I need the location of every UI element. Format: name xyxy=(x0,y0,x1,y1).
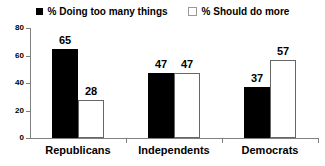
bar-value-label: 37 xyxy=(242,72,272,84)
bar-value-label: 65 xyxy=(50,34,80,46)
bar-democrats-should-do-more xyxy=(270,60,296,138)
y-axis-tick xyxy=(26,83,30,84)
legend-label: % Should do more xyxy=(202,6,290,17)
y-axis-tick-label: 40 xyxy=(0,78,24,88)
category-label-republicans: Republicans xyxy=(30,144,126,156)
category-label-democrats: Democrats xyxy=(222,144,318,156)
bar-republicans-should-do-more xyxy=(78,100,104,139)
y-axis-tick-label: 80 xyxy=(0,23,24,33)
bar-independents-doing-too-many xyxy=(148,73,174,138)
x-axis-tick xyxy=(318,139,319,143)
y-axis-tick-label: 0 xyxy=(0,133,24,143)
y-axis-tick xyxy=(26,56,30,57)
y-axis-tick xyxy=(26,28,30,29)
y-axis-tick xyxy=(26,111,30,112)
bar-value-label: 47 xyxy=(172,58,202,70)
bar-democrats-doing-too-many xyxy=(244,87,270,138)
bar-value-label: 28 xyxy=(76,85,106,97)
open-square-icon xyxy=(188,7,197,16)
bar-republicans-doing-too-many xyxy=(52,49,78,138)
chart-legend: % Doing too many things % Should do more xyxy=(0,6,325,17)
y-axis-tick xyxy=(26,138,30,139)
y-axis-line xyxy=(30,28,31,138)
x-axis-tick xyxy=(222,139,223,143)
filled-square-icon xyxy=(36,8,43,15)
y-axis-tick-label: 60 xyxy=(0,51,24,61)
legend-label: % Doing too many things xyxy=(48,6,168,17)
y-axis-tick-label: 20 xyxy=(0,106,24,116)
legend-item-doing-too-many-things: % Doing too many things xyxy=(36,6,168,17)
category-label-independents: Independents xyxy=(126,144,222,156)
bar-chart-figure: % Doing too many things % Should do more… xyxy=(0,0,325,166)
x-axis-line xyxy=(30,138,319,139)
legend-item-should-do-more: % Should do more xyxy=(188,6,290,17)
x-axis-tick xyxy=(126,139,127,143)
bar-independents-should-do-more xyxy=(174,73,200,138)
bar-value-label: 57 xyxy=(268,45,298,57)
